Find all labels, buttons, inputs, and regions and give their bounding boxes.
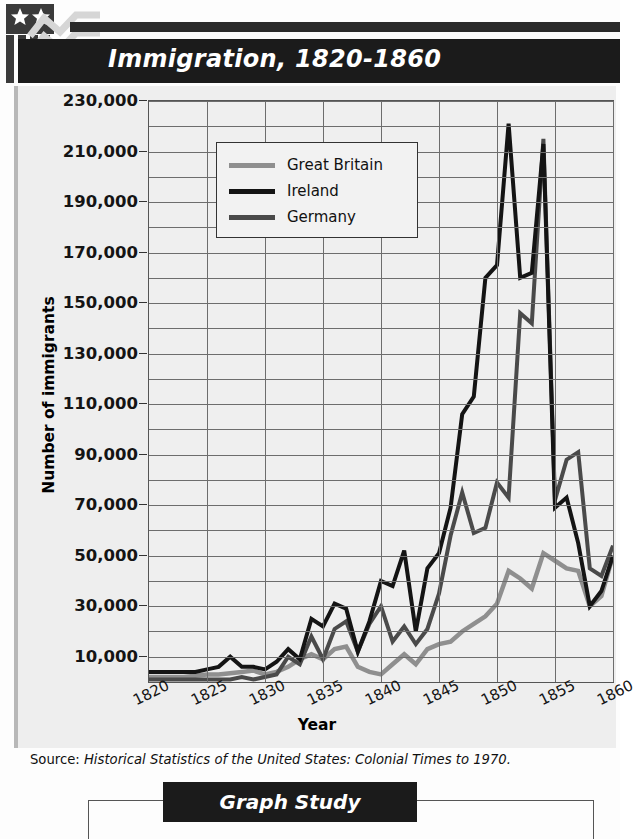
y-axis-tick-label: 10,000 bbox=[74, 646, 138, 665]
source-citation: Historical Statistics of the United Stat… bbox=[84, 752, 511, 767]
y-axis: 10,00030,00050,00070,00090,000110,000130… bbox=[18, 86, 146, 706]
y-axis-tick-label: 70,000 bbox=[74, 495, 138, 514]
page-title: Immigration, 1820-1860 bbox=[108, 45, 441, 73]
y-axis-title: Number of immigrants bbox=[40, 296, 58, 493]
y-axis-tick-mark bbox=[139, 454, 147, 455]
legend-swatch-icon bbox=[229, 189, 275, 194]
y-axis-tick-label: 150,000 bbox=[63, 293, 138, 312]
gridline-vertical bbox=[555, 101, 556, 682]
legend-label: Germany bbox=[287, 208, 356, 226]
legend-swatch-icon bbox=[229, 215, 275, 220]
y-axis-tick-mark bbox=[139, 302, 147, 303]
chart-container: 10,00030,00050,00070,00090,000110,000130… bbox=[14, 86, 616, 748]
y-axis-tick-mark bbox=[139, 201, 147, 202]
y-axis-tick-mark bbox=[139, 555, 147, 556]
y-axis-tick-mark bbox=[139, 151, 147, 152]
gridline-vertical bbox=[613, 101, 614, 682]
y-axis-tick-label: 210,000 bbox=[63, 141, 138, 160]
y-axis-tick-label: 130,000 bbox=[63, 343, 138, 362]
legend-swatch-icon bbox=[229, 163, 275, 168]
chart-legend: Great BritainIrelandGermany bbox=[216, 142, 418, 238]
y-axis-tick-label: 230,000 bbox=[63, 91, 138, 110]
legend-item: Germany bbox=[229, 204, 417, 230]
y-axis-tick-mark bbox=[139, 100, 147, 101]
y-axis-tick-mark bbox=[139, 504, 147, 505]
y-axis-tick-label: 110,000 bbox=[63, 394, 138, 413]
gridline-vertical bbox=[207, 101, 208, 682]
y-axis-tick-mark bbox=[139, 656, 147, 657]
gridline-vertical bbox=[497, 101, 498, 682]
graph-study-label: Graph Study bbox=[163, 782, 417, 822]
y-axis-tick-mark bbox=[139, 353, 147, 354]
y-axis-tick-label: 30,000 bbox=[74, 596, 138, 615]
x-axis-title: Year bbox=[18, 716, 616, 734]
source-note: Source: Historical Statistics of the Uni… bbox=[30, 752, 511, 767]
legend-label: Great Britain bbox=[287, 156, 383, 174]
y-axis-tick-mark bbox=[139, 605, 147, 606]
y-axis-tick-mark bbox=[139, 403, 147, 404]
title-accent-bar bbox=[70, 22, 620, 32]
y-axis-tick-label: 170,000 bbox=[63, 242, 138, 261]
header: Immigration, 1820-1860 bbox=[0, 0, 620, 92]
legend-label: Ireland bbox=[287, 182, 339, 200]
gridline-vertical bbox=[439, 101, 440, 682]
legend-item: Ireland bbox=[229, 178, 417, 204]
y-axis-tick-label: 90,000 bbox=[74, 444, 138, 463]
y-axis-tick-label: 190,000 bbox=[63, 192, 138, 211]
source-label: Source: bbox=[30, 752, 80, 767]
y-axis-tick-mark bbox=[139, 252, 147, 253]
legend-item: Great Britain bbox=[229, 152, 417, 178]
y-axis-tick-label: 50,000 bbox=[74, 545, 138, 564]
